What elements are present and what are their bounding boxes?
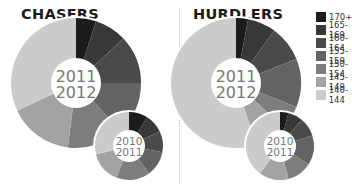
- legend: 170+ 165-169 160-164 155-159 150-154 145…: [316, 10, 363, 101]
- legend-swatch: [316, 38, 326, 48]
- legend-swatch: [316, 64, 326, 74]
- donut-chart: 20102011: [0, 0, 363, 191]
- legend-label: 140-144: [329, 85, 363, 105]
- legend-swatch: [316, 51, 326, 61]
- legend-swatch: [316, 25, 326, 35]
- legend-swatch: [316, 77, 326, 87]
- legend-item: 140-144: [316, 88, 363, 101]
- legend-swatch: [316, 12, 326, 22]
- legend-swatch: [316, 90, 326, 100]
- center-year-label: 2011: [267, 146, 294, 158]
